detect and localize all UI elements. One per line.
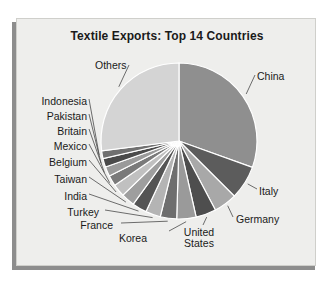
pie-label-pakistan: Pakistan — [17, 111, 87, 123]
pie-label-germany: Germany — [236, 214, 279, 226]
pie-label-china: China — [257, 71, 284, 83]
leader-line — [121, 221, 168, 223]
pie-label-britain: Britain — [21, 126, 87, 138]
leader-line — [203, 217, 207, 225]
pie-label-turkey: Turkey — [55, 207, 99, 219]
pie-label-belgium: Belgium — [21, 157, 87, 169]
pie-label-taiwan: Taiwan — [29, 174, 87, 186]
pie-label-korea: Korea — [105, 233, 147, 245]
pie-label-mexico: Mexico — [21, 141, 87, 153]
pie-label-indonesia: Indonesia — [17, 96, 87, 108]
pie-label-united-states-line2: States — [177, 238, 221, 250]
leader-line — [248, 184, 257, 189]
pie-label-others: Others — [95, 60, 127, 72]
pie-slices — [101, 63, 257, 219]
pie-slice — [101, 63, 179, 151]
leader-line — [228, 206, 233, 217]
pie-chart-figure: Textile Exports: Top 14 Countries China … — [0, 0, 333, 290]
leader-line — [246, 75, 255, 94]
chart-panel: Textile Exports: Top 14 Countries China … — [16, 18, 316, 266]
pie-label-france: France — [69, 220, 113, 232]
pie-label-india: India — [43, 191, 87, 203]
pie-label-italy: Italy — [259, 186, 278, 198]
